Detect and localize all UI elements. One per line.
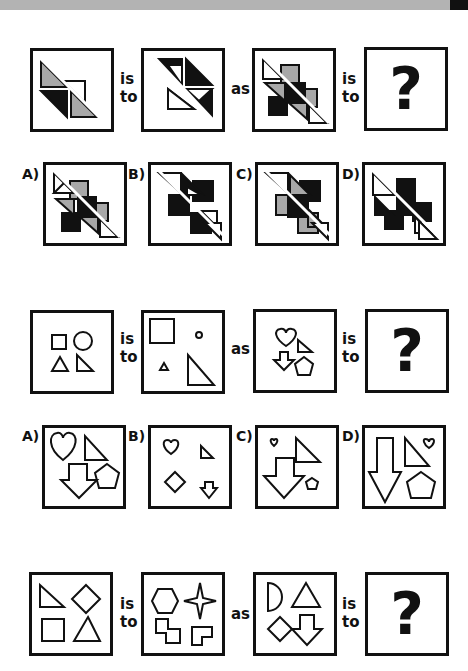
shapes-figure-icon — [45, 428, 123, 506]
triangle-figure-icon — [144, 51, 222, 129]
puzzle1-panel1 — [30, 48, 114, 132]
shapes-figure-icon — [144, 313, 222, 391]
option-label-d: D) — [342, 428, 360, 444]
shapes-figure-icon — [32, 575, 110, 653]
option-label-d: D) — [342, 166, 360, 182]
shapes-figure-icon — [144, 575, 222, 653]
puzzle1-panel3 — [252, 48, 336, 132]
shapes-figure-icon — [256, 312, 334, 390]
connector-as: as — [231, 340, 250, 358]
puzzle1-option-b[interactable] — [148, 162, 232, 246]
puzzle1-option-c[interactable] — [255, 162, 339, 246]
puzzle2-panel3 — [253, 309, 337, 393]
puzzle1-option-a[interactable] — [43, 162, 127, 246]
shapes-figure-icon — [33, 313, 111, 391]
connector-is-to: isto — [342, 70, 359, 106]
puzzle1-panel2 — [141, 48, 225, 132]
connector-is-to: isto — [120, 330, 137, 366]
puzzle3-panel2 — [141, 572, 225, 656]
shapes-figure-icon — [256, 575, 334, 653]
option-label-b: B) — [128, 166, 145, 182]
puzzle2-panel2 — [141, 310, 225, 394]
puzzle2-option-b[interactable] — [148, 425, 232, 509]
puzzle1-option-d[interactable] — [362, 162, 446, 246]
puzzle2-option-d[interactable] — [362, 425, 446, 509]
option-label-b: B) — [128, 428, 145, 444]
top-corner-block — [450, 0, 468, 10]
puzzle2-answer-placeholder: ? — [365, 309, 449, 393]
connector-is-to: isto — [342, 595, 359, 631]
shapes-figure-icon — [151, 428, 229, 506]
connector-as: as — [231, 80, 250, 98]
option-label-c: C) — [236, 166, 253, 182]
triangle-figure-icon — [46, 165, 124, 243]
question-mark-icon: ? — [368, 575, 446, 653]
connector-is-to: isto — [342, 330, 359, 366]
question-mark-icon: ? — [368, 312, 446, 390]
shapes-figure-icon — [258, 428, 336, 506]
puzzle3-panel3 — [253, 572, 337, 656]
puzzle2-option-a[interactable] — [42, 425, 126, 509]
question-mark-icon: ? — [367, 50, 445, 128]
option-label-a: A) — [22, 428, 39, 444]
puzzle3-panel1 — [29, 572, 113, 656]
triangle-figure-icon — [365, 165, 443, 243]
connector-is-to: isto — [120, 595, 137, 631]
connector-as: as — [231, 605, 250, 623]
triangle-figure-icon — [151, 165, 229, 243]
triangle-figure-icon — [33, 51, 111, 129]
puzzle2-option-c[interactable] — [255, 425, 339, 509]
puzzle3-answer-placeholder: ? — [365, 572, 449, 656]
puzzle1-answer-placeholder: ? — [364, 47, 448, 131]
option-label-a: A) — [22, 166, 39, 182]
triangle-figure-icon — [255, 51, 333, 129]
connector-is-to: isto — [120, 70, 137, 106]
top-gray-bar — [0, 0, 450, 10]
shapes-figure-icon — [365, 428, 443, 506]
option-label-c: C) — [236, 428, 253, 444]
puzzle2-panel1 — [30, 310, 114, 394]
triangle-figure-icon — [258, 165, 336, 243]
